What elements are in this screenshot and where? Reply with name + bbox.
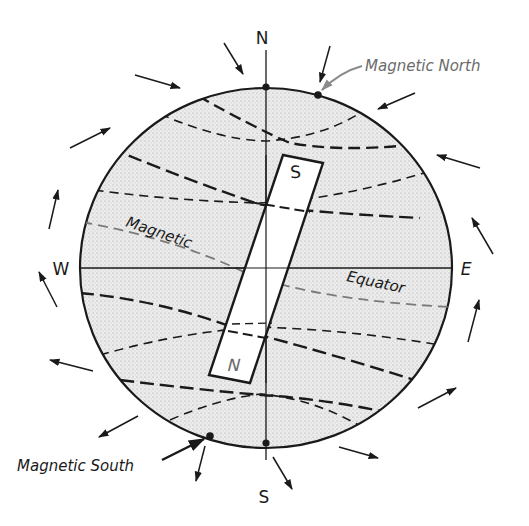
magnetic-north-dot <box>314 91 322 99</box>
compass-west-label: W <box>53 259 70 279</box>
earth-magnetic-field-diagram: S N N S W E Magnetic Equator Magnetic No… <box>0 0 529 526</box>
arrow-icon <box>472 218 493 254</box>
magnet-south-pole-label: S <box>290 162 302 183</box>
arrow-icon <box>418 388 456 408</box>
compass-north-label: N <box>256 28 269 48</box>
arrow-icon <box>50 360 93 371</box>
geographic-north-dot <box>262 83 269 90</box>
magnetic-south-label: Magnetic South <box>17 457 134 475</box>
magnetic-north-label: Magnetic North <box>365 57 480 75</box>
compass-south-label: S <box>259 487 270 507</box>
magnetic-north-callout <box>322 66 362 90</box>
magnetic-south-dot <box>206 432 214 440</box>
arrow-icon <box>273 457 292 489</box>
arrow-icon <box>339 447 378 458</box>
compass-east-label: E <box>461 259 472 279</box>
arrow-icon <box>378 93 415 109</box>
arrow-icon <box>49 190 58 229</box>
geographic-south-dot <box>262 439 269 446</box>
arrow-icon <box>135 75 180 88</box>
arrow-icon <box>320 46 330 82</box>
arrow-icon <box>99 416 138 437</box>
arrow-icon <box>224 43 243 74</box>
magnetic-south-callout <box>162 439 204 460</box>
arrow-icon <box>70 128 110 148</box>
arrow-icon <box>468 300 479 342</box>
arrow-icon <box>437 155 480 168</box>
arrow-icon <box>196 446 205 481</box>
